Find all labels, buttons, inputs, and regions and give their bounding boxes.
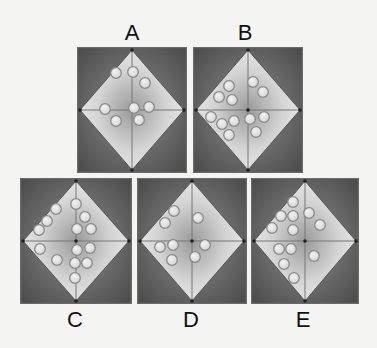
ball-icon: [224, 130, 235, 141]
ball-icon: [111, 116, 122, 127]
ball-icon: [80, 212, 91, 223]
ball-icon: [155, 242, 166, 253]
ball-icon: [288, 211, 299, 222]
ball-icon: [167, 255, 178, 266]
vertex-dot: [127, 239, 131, 243]
ball-icon: [34, 225, 45, 236]
vertex-dot: [130, 48, 134, 52]
ball-icon: [288, 197, 299, 208]
ball-icon: [200, 240, 211, 251]
vertex-dot: [252, 239, 256, 243]
ball-icon: [71, 199, 82, 210]
vertex-dot: [74, 239, 78, 243]
ball-icon: [289, 273, 300, 284]
option-panel-b[interactable]: [193, 47, 303, 173]
vertex-dot: [190, 179, 194, 183]
vertex-dot: [190, 239, 194, 243]
ball-icon: [315, 220, 326, 231]
ball-icon: [86, 224, 97, 235]
ball-icon: [224, 81, 235, 92]
ball-icon: [259, 112, 270, 123]
ball-icon: [190, 252, 201, 263]
ball-icon: [72, 245, 83, 256]
option-label-b: B: [225, 21, 265, 45]
vertex-dot: [246, 168, 250, 172]
ball-icon: [51, 204, 62, 215]
ball-icon: [70, 258, 81, 269]
ball-icon: [100, 104, 111, 115]
ball-icon: [140, 78, 151, 89]
vertex-dot: [354, 239, 358, 243]
ball-icon: [169, 206, 180, 217]
ball-icon: [245, 114, 256, 125]
vertex-dot: [298, 108, 302, 112]
panel-graphic: [137, 178, 247, 304]
vertex-dot: [190, 299, 194, 303]
vertex-dot: [246, 108, 250, 112]
vertex-dot: [21, 239, 25, 243]
ball-icon: [111, 68, 122, 79]
panel-graphic: [77, 47, 187, 173]
ball-icon: [42, 216, 53, 227]
ball-icon: [258, 87, 269, 98]
option-label-c: C: [55, 308, 95, 332]
panel-graphic: [251, 178, 359, 304]
option-label-d: D: [171, 308, 211, 332]
ball-icon: [52, 255, 63, 266]
ball-icon: [85, 243, 96, 254]
vertex-dot: [138, 239, 142, 243]
ball-icon: [35, 244, 46, 255]
ball-icon: [309, 251, 320, 262]
option-panel-c[interactable]: [20, 178, 132, 304]
ball-icon: [248, 77, 259, 88]
panel-graphic: [20, 178, 132, 304]
vertex-dot: [303, 179, 307, 183]
ball-icon: [129, 103, 140, 114]
ball-icon: [214, 92, 225, 103]
ball-icon: [128, 67, 139, 78]
ball-icon: [227, 95, 238, 106]
ball-icon: [70, 273, 81, 284]
ball-icon: [144, 102, 155, 113]
vertex-dot: [242, 239, 246, 243]
ball-icon: [168, 240, 179, 251]
option-label-a: A: [112, 21, 152, 45]
vertex-dot: [246, 48, 250, 52]
ball-icon: [193, 213, 204, 224]
vertex-dot: [74, 179, 78, 183]
ball-icon: [217, 119, 228, 130]
ball-icon: [82, 258, 93, 269]
vertex-dot: [194, 108, 198, 112]
ball-icon: [274, 244, 285, 255]
ball-icon: [206, 112, 217, 123]
option-panel-e[interactable]: [251, 178, 359, 304]
vertex-dot: [74, 299, 78, 303]
ball-icon: [229, 116, 240, 127]
ball-icon: [267, 223, 278, 234]
ball-icon: [279, 259, 290, 270]
vertex-dot: [130, 168, 134, 172]
ball-icon: [72, 224, 83, 235]
ball-icon: [288, 225, 299, 236]
ball-icon: [286, 244, 297, 255]
ball-icon: [304, 208, 315, 219]
option-label-e: E: [283, 308, 323, 332]
vertex-dot: [182, 108, 186, 112]
option-panel-d[interactable]: [137, 178, 247, 304]
ball-icon: [134, 115, 145, 126]
option-panel-a[interactable]: [77, 47, 187, 173]
vertex-dot: [303, 299, 307, 303]
panel-graphic: [193, 47, 303, 173]
ball-icon: [160, 218, 171, 229]
vertex-dot: [303, 239, 307, 243]
ball-icon: [251, 127, 262, 138]
vertex-dot: [78, 108, 82, 112]
ball-icon: [276, 211, 287, 222]
